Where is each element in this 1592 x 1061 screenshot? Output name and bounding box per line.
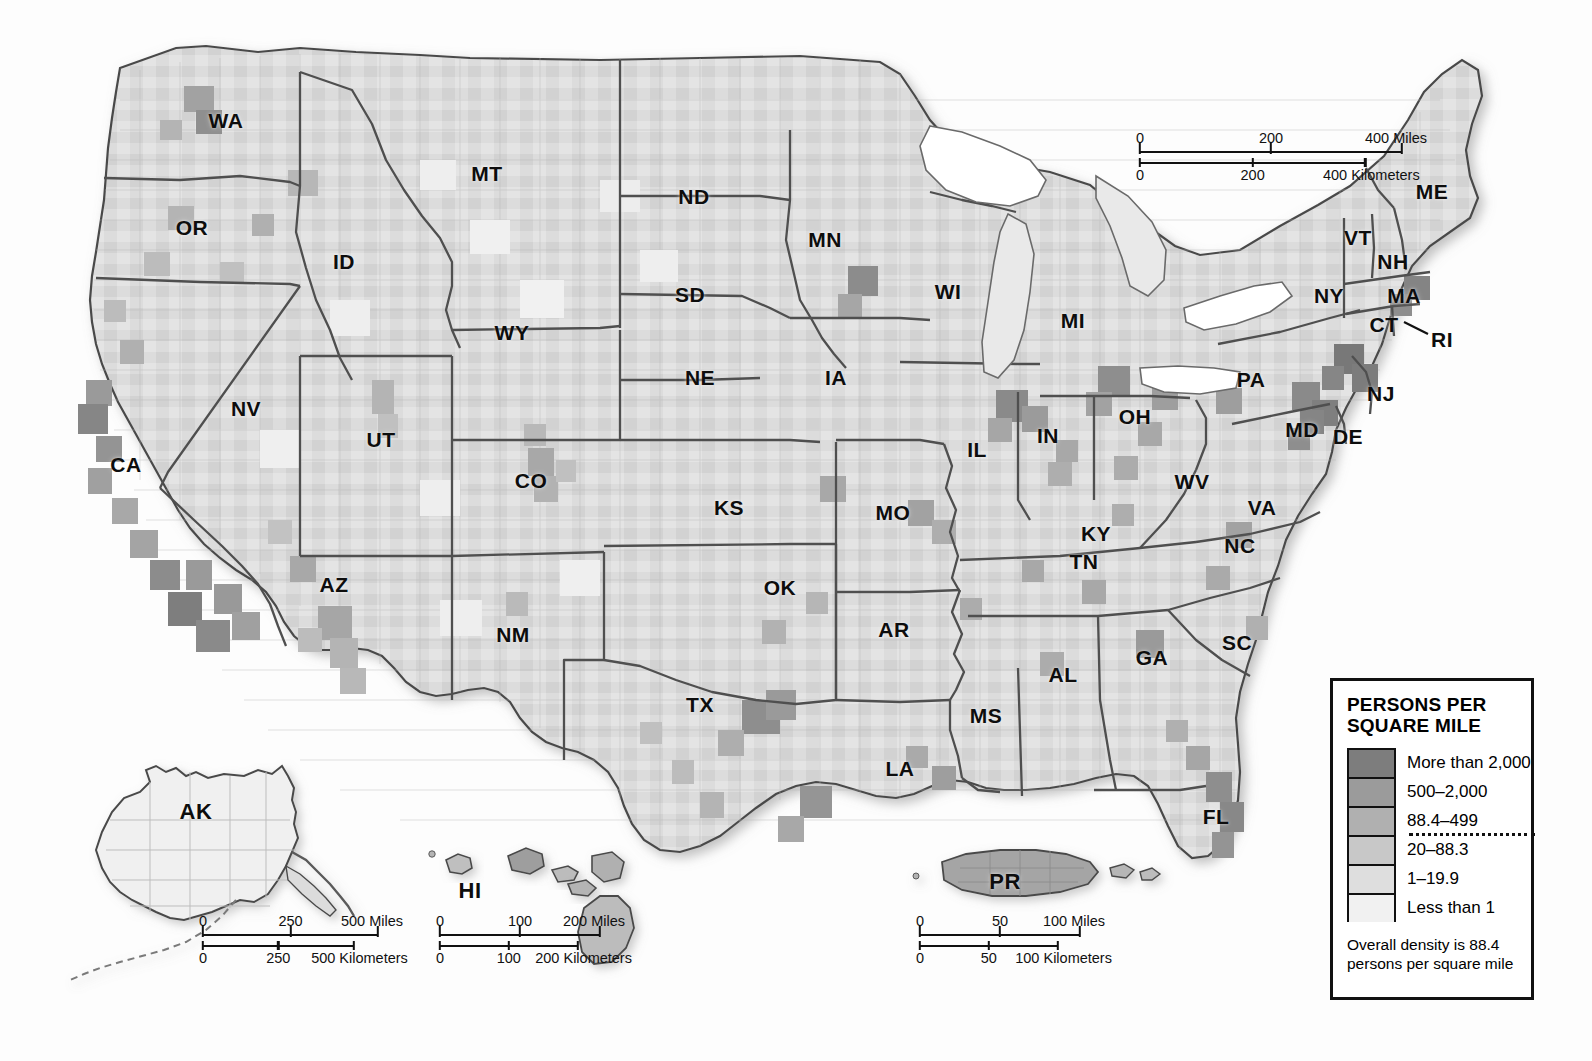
sb-ak-km-labels: 0250500 Kilometers [203,950,378,967]
sb-main-miles-bar [1140,147,1402,156]
sb-pr-miles-tickmark-0 [919,926,921,937]
hawaii-scale-bar: 0100200 Miles0100200 Kilometers [440,913,600,967]
sb-main-km-labels: 0200400 Kilometers [1140,167,1402,184]
sb-hi-miles-tickmark-0 [439,926,441,937]
sb-hi-km-tickmark-0 [439,941,441,950]
legend-swatch-1 [1347,777,1396,806]
sb-main-miles-tickmark-1 [1270,143,1272,154]
main-scale-bar: 0200400 Miles0200400 Kilometers [1140,130,1402,184]
sb-pr-miles-tickmark-1 [999,926,1001,937]
sb-ak-km-tick-0: 0 [199,950,207,967]
legend-class-label-0: More than 2,000 [1396,754,1531,772]
map-legend: PERSONS PER SQUARE MILE More than 2,0005… [1330,678,1534,1000]
sb-main-miles-tickmark-0 [1139,143,1141,154]
sb-main-km-tickmark-2 [1364,158,1366,167]
sb-main-km-tick-1: 200 [1241,167,1265,184]
sb-ak-km-tickmark-1 [277,941,279,950]
sb-pr-km-tickmark-0 [919,941,921,950]
sb-hi-miles-tickmark-1 [519,926,521,937]
sb-ak-km-tick-1: 250 [266,950,290,967]
legend-class-label-2: 88.4–499 [1396,812,1478,830]
legend-class-row-4: 1–19.9 [1347,864,1519,893]
legend-class-row-5: Less than 1 [1347,893,1519,922]
sb-pr-km-tick-1: 50 [981,950,997,967]
population-density-map: WAORIDMTNDSDMNWIMIWYNVUTCONEIAILINOHPANY… [0,0,1592,1061]
sb-hi-km-tick-0: 0 [436,950,444,967]
sb-ak-km-tick-2: 500 Kilometers [311,950,408,967]
sb-hi-km-labels: 0100200 Kilometers [440,950,600,967]
sb-hi-miles-tickmark-2 [599,926,601,937]
legend-class-row-1: 500–2,000 [1347,777,1519,806]
sb-ak-miles-tickmark-0 [202,926,204,937]
legend-swatch-5 [1347,893,1396,922]
sb-hi-miles-bar [440,930,600,939]
sb-main-km-tickmark-1 [1251,158,1253,167]
legend-class-label-5: Less than 1 [1396,899,1495,917]
sb-pr-km-tickmark-1 [988,941,990,950]
sb-main-miles-tickmark-2 [1401,143,1403,154]
sb-ak-miles-tick-2: 500 Miles [341,913,403,930]
puerto-rico-scale-bar: 050100 Miles050100 Kilometers [920,913,1080,967]
sb-hi-km-tickmark-1 [508,941,510,950]
sb-hi-km-tickmark-2 [576,941,578,950]
alaska-scale-bar: 0250500 Miles0250500 Kilometers [203,913,378,967]
sb-main-km-tick-2: 400 Kilometers [1323,167,1420,184]
sb-pr-km-tickmark-2 [1056,941,1058,950]
sb-hi-km-tick-1: 100 [497,950,521,967]
sb-ak-miles-tickmark-2 [377,926,379,937]
legend-note: Overall density is 88.4 persons per squa… [1347,935,1519,973]
sb-main-miles-tick-2: 400 Miles [1365,130,1427,147]
legend-class-row-3: 20–88.3 [1347,835,1519,864]
legend-class-label-1: 500–2,000 [1396,783,1487,801]
sb-pr-km-bar [920,941,1080,950]
sb-hi-km-tick-2: 200 Kilometers [535,950,632,967]
puerto-rico-inset [913,850,1160,896]
legend-class-label-3: 20–88.3 [1396,841,1468,859]
sb-ak-miles-bar [203,930,378,939]
sb-pr-km-tick-0: 0 [916,950,924,967]
rhode-island-leader-line [1404,322,1428,334]
legend-dotted-separator [1409,833,1535,836]
sb-hi-miles-tick-2: 200 Miles [563,913,625,930]
sb-pr-miles-bar [920,930,1080,939]
legend-swatch-4 [1347,864,1396,893]
sb-pr-miles-tickmark-2 [1079,926,1081,937]
sb-ak-km-tickmark-2 [352,941,354,950]
sb-pr-km-tick-2: 100 Kilometers [1015,950,1112,967]
legend-swatch-2 [1347,806,1396,835]
legend-class-row-2: 88.4–499 [1347,806,1519,835]
sb-pr-km-labels: 050100 Kilometers [920,950,1080,967]
sb-hi-km-bar [440,941,600,950]
legend-swatch-3 [1347,835,1396,864]
legend-swatch-list: More than 2,000500–2,00088.4–49920–88.31… [1347,748,1519,922]
legend-class-label-4: 1–19.9 [1396,870,1459,888]
sb-ak-km-tickmark-0 [202,941,204,950]
sb-pr-miles-tick-2: 100 Miles [1043,913,1105,930]
legend-swatch-0 [1347,748,1396,777]
sb-main-km-tickmark-0 [1139,158,1141,167]
legend-title: PERSONS PER SQUARE MILE [1347,694,1519,736]
sb-main-km-tick-0: 0 [1136,167,1144,184]
sb-main-km-bar [1140,158,1402,167]
sb-ak-miles-tickmark-1 [289,926,291,937]
legend-class-row-0: More than 2,000 [1347,748,1519,777]
sb-ak-km-bar [203,941,378,950]
